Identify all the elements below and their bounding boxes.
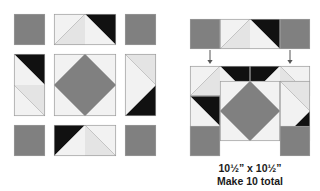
unit-flying-geese-left	[14, 54, 45, 116]
unit-flying-geese-top	[54, 14, 116, 45]
block-caption: 10½” x 10½”Make 10 total	[217, 162, 283, 187]
strip-square-right	[280, 19, 310, 49]
patch-solid-fill	[190, 126, 220, 156]
patch-solid-fill	[125, 125, 156, 156]
patch-solid-fill	[14, 125, 45, 156]
patch-solid-fill	[190, 19, 220, 49]
unit-corner-square-bottom-right	[125, 125, 156, 156]
unit-corner-square-top-left	[14, 14, 45, 45]
unit-corner-square-bottom-left	[14, 125, 45, 156]
caption-quantity-label: Make 10 total	[217, 175, 283, 187]
unit-flying-geese-bottom	[54, 125, 116, 156]
quilt-assembly-diagram: 10½” x 10½”Make 10 total	[0, 0, 320, 191]
block-unit-bottom-right	[280, 126, 310, 156]
patch-solid-fill	[125, 14, 156, 45]
caption-size-label: 10½” x 10½”	[218, 162, 281, 174]
patch-solid-fill	[280, 126, 310, 156]
strip-flying-geese	[220, 19, 280, 49]
component-units-grid	[14, 14, 156, 156]
patch-solid-fill	[14, 14, 45, 45]
unit-flying-geese-right	[125, 54, 156, 116]
block-unit-bottom-left	[190, 126, 220, 156]
assembled-top-row-strip	[190, 19, 310, 49]
strip-square-left	[190, 19, 220, 49]
block-unit-center	[220, 81, 280, 141]
unit-center-square-in-square	[54, 54, 116, 116]
patch-solid-fill	[280, 19, 310, 49]
unit-corner-square-top-right	[125, 14, 156, 45]
diagram-canvas: 10½” x 10½”Make 10 total	[0, 0, 320, 191]
